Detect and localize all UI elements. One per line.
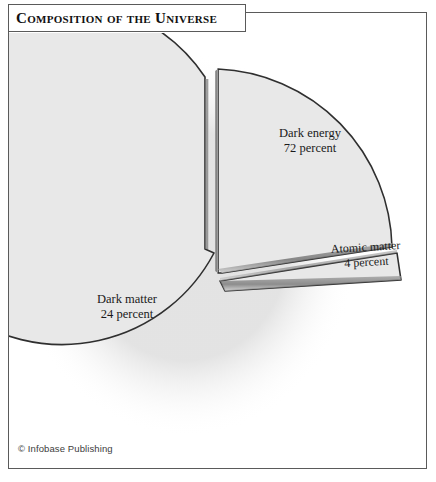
figure-composition-of-the-universe: Composition of the Universe [0,0,436,482]
figure-title-box: Composition of the Universe [8,4,246,32]
page-title: Composition of the Universe [16,10,217,27]
dark-matter-edge-shade [206,79,209,249]
dark-energy-side-wall [215,69,218,273]
publisher-credit: © Infobase Publishing [18,443,113,454]
pie-chart [9,33,426,437]
slice-dark-energy [218,69,392,273]
pie-chart-svg [9,33,426,437]
